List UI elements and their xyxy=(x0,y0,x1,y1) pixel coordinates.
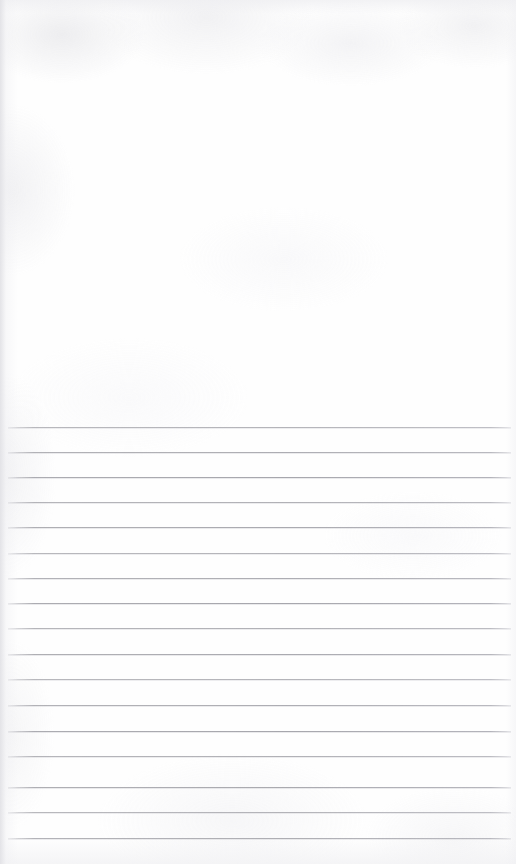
blank-upper-area xyxy=(0,0,516,427)
scanned-page xyxy=(0,0,516,864)
